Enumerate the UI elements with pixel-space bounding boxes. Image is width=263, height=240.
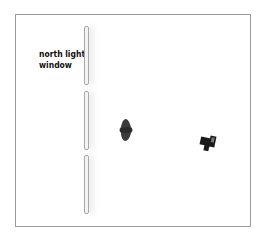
label-line-1: north light [39,49,85,60]
window-label: north light window [39,49,85,71]
window-pane-2 [84,91,89,150]
subject-icon [118,118,134,142]
window-pane-1 [84,26,89,85]
window-pane-3 [84,155,89,214]
camera-icon [198,133,218,153]
label-line-2: window [39,60,85,71]
